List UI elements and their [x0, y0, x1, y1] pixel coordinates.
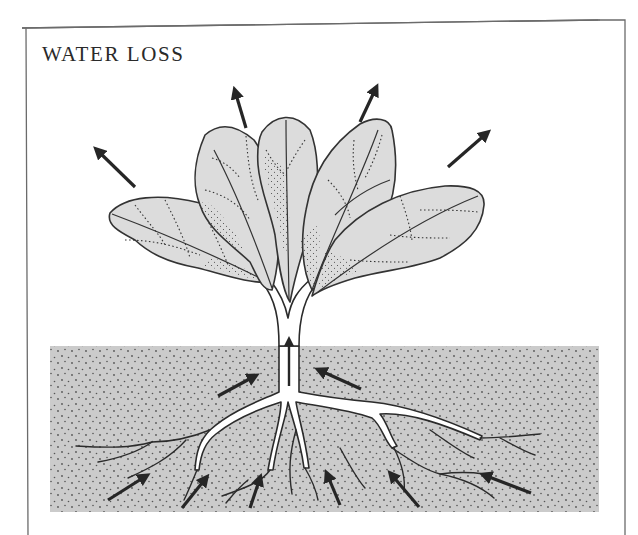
plant-water-loss-illustration	[0, 0, 638, 535]
arrow-up-right-icon	[448, 133, 487, 167]
diagram-title: WATER LOSS	[42, 42, 185, 67]
diagram-frame: WATER LOSS	[0, 0, 638, 535]
arrow-up-right-icon	[360, 88, 376, 122]
arrow-up-icon	[235, 91, 246, 128]
leaves	[109, 117, 484, 302]
arrow-up-left-icon	[97, 150, 135, 187]
